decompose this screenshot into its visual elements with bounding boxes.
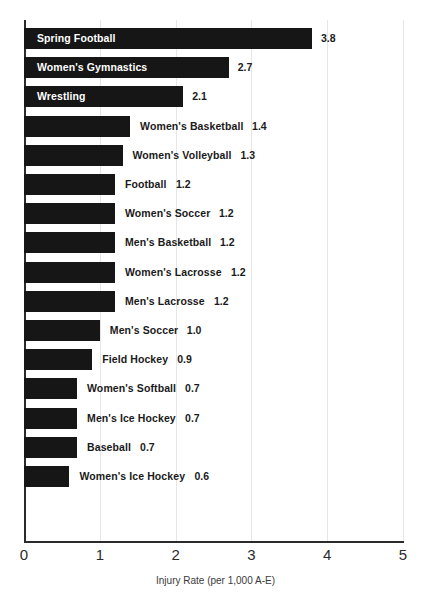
bar-value-label: 1.0 [187, 320, 202, 341]
bar[interactable] [24, 291, 115, 312]
gridline-5 [403, 20, 404, 541]
bar-row[interactable]: Wrestling2.1 [24, 86, 403, 107]
bar-category-label: Women's Soccer [125, 203, 210, 224]
bar-value-label: 1.4 [252, 116, 267, 137]
bar-category-label: Baseball [87, 437, 131, 458]
bar-value-label: 1.2 [214, 291, 229, 312]
bar-row[interactable]: Women's Volleyball1.3 [24, 145, 403, 166]
x-axis-title: Injury Rate (per 1,000 A-E) [0, 575, 431, 586]
bar-value-label: 0.6 [194, 466, 209, 487]
bar-row[interactable]: Men's Ice Hockey0.7 [24, 408, 403, 429]
bar[interactable] [24, 408, 77, 429]
bar-category-label: Spring Football [37, 28, 116, 49]
bar-row[interactable]: Men's Soccer1.0 [24, 320, 403, 341]
bar-category-label: Women's Gymnastics [37, 57, 147, 78]
bar-category-label: Football [125, 174, 167, 195]
bar[interactable] [24, 145, 123, 166]
bar-value-label: 1.2 [176, 174, 191, 195]
bar-value-label: 1.3 [241, 145, 256, 166]
bar-value-label: 0.7 [140, 437, 155, 458]
bar-category-label: Women's Softball [87, 378, 176, 399]
bar[interactable] [24, 232, 115, 253]
bar[interactable] [24, 174, 115, 195]
bar-category-label: Women's Ice Hockey [79, 466, 185, 487]
bar-category-label: Women's Basketball [140, 116, 243, 137]
bar-category-label: Wrestling [37, 86, 86, 107]
bar-row[interactable]: Women's Ice Hockey0.6 [24, 466, 403, 487]
bar-value-label: 3.8 [321, 28, 336, 49]
bar-category-label: Women's Volleyball [133, 145, 232, 166]
bar[interactable] [24, 378, 77, 399]
x-tick-label-1: 1 [85, 546, 115, 563]
bar-row[interactable]: Men's Lacrosse1.2 [24, 291, 403, 312]
bar-category-label: Men's Soccer [110, 320, 178, 341]
bar-row[interactable]: Baseball0.7 [24, 437, 403, 458]
x-tick-label-2: 2 [161, 546, 191, 563]
plot-area: Spring Football3.8Women's Gymnastics2.7W… [24, 20, 403, 541]
bar[interactable] [24, 437, 77, 458]
bar-category-label: Field Hockey [102, 349, 168, 370]
horizontal-bar-chart: Spring Football3.8Women's Gymnastics2.7W… [0, 0, 431, 601]
bar-row[interactable]: Spring Football3.8 [24, 28, 403, 49]
bar[interactable] [24, 466, 69, 487]
x-tick-label-0: 0 [9, 546, 39, 563]
bar-value-label: 0.7 [185, 408, 200, 429]
x-axis-line [24, 541, 404, 543]
bar-row[interactable]: Field Hockey0.9 [24, 349, 403, 370]
bar-value-label: 0.7 [185, 378, 200, 399]
bar-category-label: Men's Lacrosse [125, 291, 205, 312]
x-tick-label-3: 3 [236, 546, 266, 563]
bar-category-label: Men's Basketball [125, 232, 211, 253]
bar-value-label: 1.2 [219, 203, 234, 224]
x-tick-label-5: 5 [388, 546, 418, 563]
bar[interactable] [24, 116, 130, 137]
bar-row[interactable]: Women's Softball0.7 [24, 378, 403, 399]
bar[interactable] [24, 203, 115, 224]
bar[interactable] [24, 320, 100, 341]
bar-value-label: 0.9 [177, 349, 192, 370]
x-tick-label-4: 4 [312, 546, 342, 563]
bar-row[interactable]: Football1.2 [24, 174, 403, 195]
bar-row[interactable]: Women's Lacrosse1.2 [24, 262, 403, 283]
bar-row[interactable]: Women's Soccer1.2 [24, 203, 403, 224]
bar-row[interactable]: Men's Basketball1.2 [24, 232, 403, 253]
bar-row[interactable]: Women's Basketball1.4 [24, 116, 403, 137]
bar-value-label: 2.7 [238, 57, 253, 78]
bar-category-label: Women's Lacrosse [125, 262, 222, 283]
bar[interactable] [24, 349, 92, 370]
bar-value-label: 1.2 [220, 232, 235, 253]
bar-value-label: 2.1 [192, 86, 207, 107]
bar-category-label: Men's Ice Hockey [87, 408, 176, 429]
scan-artifact-text [46, 1, 346, 9]
bar-row[interactable]: Women's Gymnastics2.7 [24, 57, 403, 78]
bar-value-label: 1.2 [231, 262, 246, 283]
bar[interactable] [24, 262, 115, 283]
